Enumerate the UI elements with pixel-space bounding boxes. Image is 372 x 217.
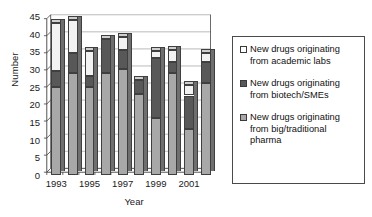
bar-segment	[151, 58, 161, 118]
bar-segment	[184, 85, 194, 96]
bar-segment	[68, 53, 78, 72]
bar-segment	[168, 73, 178, 175]
bar-top-face	[101, 35, 111, 39]
bar-segment	[151, 51, 161, 58]
legend-item-biotech: New drugs originatingfrom biotech/SMEs	[240, 78, 359, 101]
bar-segment	[118, 50, 128, 69]
chart-container: Number Year 051015202530354045 199319951…	[0, 0, 372, 217]
x-tick-1999: 1999	[145, 178, 166, 189]
legend-label-biotech: New drugs originatingfrom biotech/SMEs	[250, 78, 340, 101]
bar-segment	[134, 94, 144, 175]
bar-segment	[85, 76, 95, 87]
bar-top-face	[168, 46, 178, 50]
y-tick-35: 35	[0, 46, 40, 57]
bar-side-face	[94, 47, 98, 171]
y-tick-25: 25	[0, 81, 40, 92]
x-tick-1995: 1995	[79, 178, 100, 189]
y-tick-5: 5	[0, 152, 40, 163]
legend-label-pharma: New drugs originatingfrom big/traditiona…	[250, 112, 340, 147]
bar-side-face	[78, 16, 82, 171]
bar-segment	[101, 39, 111, 73]
plot-area	[47, 12, 217, 175]
legend-item-pharma: New drugs originatingfrom big/traditiona…	[240, 112, 359, 147]
bar-segment	[184, 129, 194, 175]
bar-segment	[101, 73, 111, 175]
bar-segment	[118, 37, 128, 49]
x-tick-2001: 2001	[179, 178, 200, 189]
bar-segment	[85, 51, 95, 76]
x-tick-1997: 1997	[112, 178, 133, 189]
bar-segment	[168, 62, 178, 73]
bar-segment	[134, 80, 144, 94]
bar-side-face	[194, 81, 198, 171]
x-axis-tick-labels: 19931995199719992001	[47, 178, 217, 192]
bar-segment	[51, 71, 61, 87]
bar-side-face	[161, 47, 165, 171]
bar-segment	[201, 62, 211, 83]
bar-top-face	[51, 19, 61, 23]
x-tick-1993: 1993	[46, 178, 67, 189]
bar-side-face	[111, 35, 115, 171]
bar-top-face	[118, 33, 128, 37]
bar-top-face	[68, 16, 78, 20]
y-tick-15: 15	[0, 117, 40, 128]
y-tick-30: 30	[0, 64, 40, 75]
bar-segment	[184, 96, 194, 130]
legend-swatch-pharma	[240, 114, 247, 121]
y-tick-40: 40	[0, 28, 40, 39]
legend-label-academic: New drugs originatingfrom academic labs	[250, 44, 340, 67]
bar-segment	[201, 83, 211, 175]
bar-segment	[201, 53, 211, 62]
bar-top-face	[85, 47, 95, 51]
bar-top-face	[151, 47, 161, 51]
bar-segment	[151, 118, 161, 175]
y-tick-10: 10	[0, 134, 40, 145]
bar-segment	[85, 87, 95, 175]
x-axis-title: Year	[44, 196, 224, 207]
bar-segment	[118, 69, 128, 175]
y-tick-45: 45	[0, 11, 40, 22]
bar-segment	[68, 73, 78, 175]
legend-item-academic: New drugs originatingfrom academic labs	[240, 44, 359, 67]
bar-segment	[51, 23, 61, 71]
bar-side-face	[144, 76, 148, 171]
bar-segment	[168, 50, 178, 62]
bar-side-face	[177, 46, 181, 171]
y-tick-0: 0	[0, 170, 40, 181]
y-tick-20: 20	[0, 99, 40, 110]
bar-segment	[68, 20, 78, 54]
legend-swatch-biotech	[240, 80, 247, 87]
bar-top-face	[184, 81, 194, 85]
bar-side-face	[211, 49, 215, 171]
bar-segment	[51, 87, 61, 175]
bar-top-face	[134, 76, 144, 80]
legend-swatch-academic	[240, 46, 247, 53]
chart-legend: New drugs originatingfrom academic labs …	[232, 36, 365, 184]
bars-layer	[47, 12, 217, 175]
bar-side-face	[61, 19, 65, 171]
bar-top-face	[201, 49, 211, 53]
bar-side-face	[128, 33, 132, 171]
